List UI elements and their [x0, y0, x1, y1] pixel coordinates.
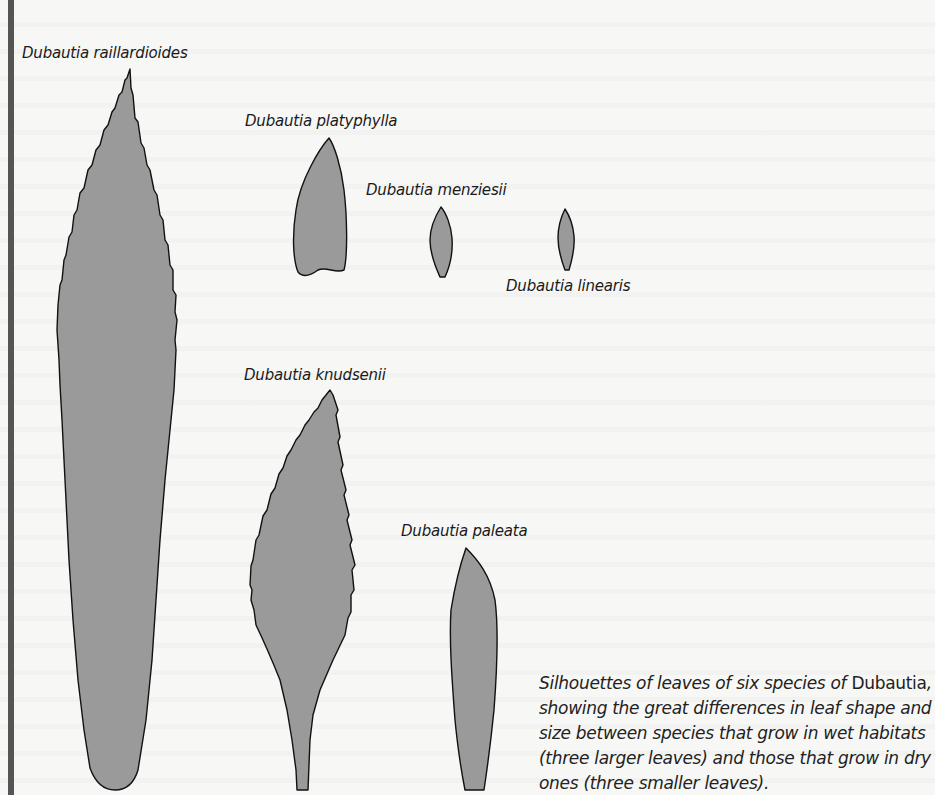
figure-caption: Silhouettes of leaves of six species of … [539, 671, 935, 795]
leaf-raillardioides [57, 69, 177, 790]
leaf-knudsenii [250, 390, 355, 790]
label-raillardioides: Dubautia raillardioides [22, 44, 188, 62]
leaf-paleata [450, 548, 497, 790]
label-paleata: Dubautia paleata [401, 522, 527, 540]
caption-genus: Dubautia [851, 673, 926, 693]
label-menziesii: Dubautia menziesii [366, 181, 506, 199]
leaf-linearis [558, 209, 574, 270]
leaf-menziesii [430, 207, 452, 277]
caption-part-1: Silhouettes of leaves of six species of [539, 673, 851, 693]
label-platyphylla: Dubautia platyphylla [245, 112, 397, 130]
leaf-platyphylla [294, 138, 347, 276]
label-knudsenii: Dubautia knudsenii [244, 366, 386, 384]
label-linearis: Dubautia linearis [506, 277, 630, 295]
